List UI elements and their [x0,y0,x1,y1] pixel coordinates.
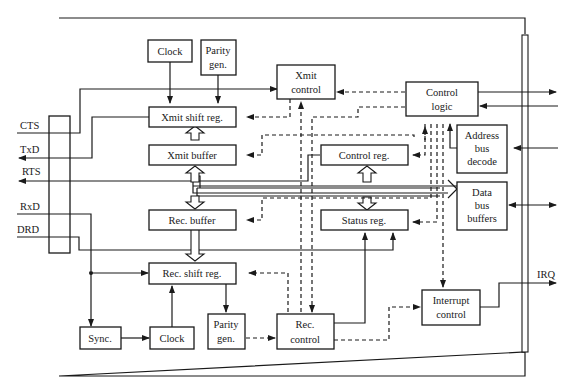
block-control-logic: Control logic [406,82,478,116]
svg-text:Status reg.: Status reg. [342,215,386,226]
block-clock-rx: Clock [150,327,194,349]
svg-text:Parity: Parity [205,45,231,56]
signal-rxd: RxD [20,201,40,212]
svg-text:decode: decode [467,156,497,167]
svg-text:Parity: Parity [213,319,239,330]
svg-text:Clock: Clock [159,333,185,344]
cts-line [17,89,277,133]
svg-text:Xmit shift reg.: Xmit shift reg. [161,112,223,123]
svg-text:Control: Control [426,87,458,98]
block-rec-buffer: Rec. buffer [149,210,236,230]
svg-text:control: control [290,334,320,345]
rxd-line [17,214,91,271]
block-rec-shift-reg: Rec. shift reg. [149,263,236,284]
block-parity-gen-rx: Parity gen. [208,314,245,349]
block-interrupt-control: Interrupt control [422,290,480,325]
svg-text:bus: bus [475,200,490,211]
rec-control-to-status [334,233,365,323]
svg-text:Xmit buffer: Xmit buffer [167,150,217,161]
block-address-bus-decode: Address bus decode [457,125,507,173]
svg-text:Clock: Clock [157,46,183,57]
svg-text:Data: Data [472,187,492,198]
svg-text:logic: logic [432,101,453,112]
block-xmit-control: Xmit control [277,65,335,99]
signal-drd: DRD [17,224,40,235]
left-connector-block [49,116,70,253]
block-xmit-buffer: Xmit buffer [149,145,236,165]
block-control-reg: Control reg. [321,145,408,165]
xmit-control-to-shift [247,99,290,117]
internal-data-bus [193,170,457,198]
svg-text:Control reg.: Control reg. [339,150,390,161]
cl-to-control-reg [413,124,425,155]
block-rec-control: Rec. control [277,314,334,349]
svg-text:control: control [436,309,466,320]
svg-text:Xmit: Xmit [295,70,317,81]
svg-text:Rec.: Rec. [296,319,315,330]
system-bus-bar [522,35,528,352]
block-status-reg: Status reg. [321,210,408,230]
svg-text:Address: Address [465,130,499,141]
block-data-bus-buffers: Data bus buffers [457,182,507,230]
block-parity-gen-tx: Parity gen. [201,40,236,75]
svg-text:bus: bus [475,143,490,154]
svg-text:Interrupt: Interrupt [433,295,470,306]
block-xmit-shift-reg: Xmit shift reg. [149,107,236,127]
svg-text:gen.: gen. [217,333,235,344]
svg-text:gen.: gen. [209,59,227,70]
address-to-control-logic [450,124,457,148]
cl-to-rec-buffer [247,124,431,220]
svg-text:Rec. shift reg.: Rec. shift reg. [163,268,222,279]
signal-irq: IRQ [537,269,556,280]
rec-control-to-rec-shift [249,273,288,312]
irq-line [480,283,556,307]
svg-text:Rec. buffer: Rec. buffer [168,215,216,226]
uart-block-diagram: Clock Parity gen. Xmit control Control l… [0,0,576,389]
signal-rts: RTS [22,166,41,177]
svg-text:buffers: buffers [467,213,497,224]
block-sync: Sync. [80,327,121,349]
svg-text:control: control [291,84,321,95]
svg-text:Sync.: Sync. [88,333,112,344]
block-clock-tx: Clock [148,40,192,62]
signal-cts: CTS [20,120,39,131]
drd-line [17,233,393,250]
signal-txd: TxD [20,144,40,155]
